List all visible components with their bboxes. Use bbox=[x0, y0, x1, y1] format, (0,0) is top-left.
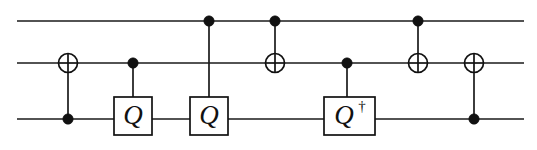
gate-cnot-7[interactable] bbox=[465, 54, 484, 125]
control-dot-icon[interactable] bbox=[413, 16, 423, 26]
dagger-icon: † bbox=[358, 98, 366, 114]
control-dot-icon[interactable] bbox=[270, 16, 280, 26]
control-dot-icon[interactable] bbox=[63, 114, 73, 124]
control-dot-icon[interactable] bbox=[128, 58, 138, 68]
gate-controlled-q-dagger-5[interactable]: Q † bbox=[324, 58, 375, 135]
gate-cnot-6[interactable] bbox=[409, 16, 428, 73]
control-dot-icon[interactable] bbox=[204, 16, 214, 26]
gate-cnot-1[interactable] bbox=[59, 54, 78, 125]
gate-controlled-q-2[interactable]: Q bbox=[114, 58, 152, 135]
gate-box-label: Q bbox=[199, 100, 219, 130]
gate-cnot-4[interactable] bbox=[266, 16, 285, 73]
control-dot-icon[interactable] bbox=[342, 58, 352, 68]
circuit-canvas: Q Q Q † bbox=[0, 0, 537, 150]
gate-controlled-q-3[interactable]: Q bbox=[190, 16, 228, 135]
gate-box-label: Q bbox=[123, 100, 143, 130]
gate-box-label: Q bbox=[334, 100, 354, 130]
quantum-circuit-figure: Q Q Q † bbox=[0, 0, 537, 150]
control-dot-icon[interactable] bbox=[469, 114, 479, 124]
